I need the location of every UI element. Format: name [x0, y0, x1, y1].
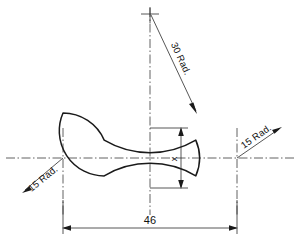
width-dimension-annotation: 46 — [62, 200, 238, 234]
width-dimension-label: 46 — [144, 214, 157, 226]
centerlines — [6, 8, 296, 216]
part-outline — [59, 113, 199, 176]
waist-dimension-label: x — [169, 156, 179, 161]
radius-15-right-annotation: 15 Rad. — [237, 122, 282, 158]
radius-15-left-label: 15 Rad. — [26, 163, 60, 193]
radius-30-annotation: 30 Rad. — [141, 7, 197, 114]
drawing-svg: 30 Rad. 15 Rad. 15 Rad. x — [0, 0, 302, 242]
radius-30-label: 30 Rad. — [169, 40, 194, 76]
radius-30-arrowhead — [189, 103, 197, 115]
profile-outline-path — [59, 113, 199, 176]
technical-drawing-canvas: 30 Rad. 15 Rad. 15 Rad. x — [0, 0, 302, 242]
radius-15-left-annotation: 15 Rad. — [22, 158, 63, 193]
